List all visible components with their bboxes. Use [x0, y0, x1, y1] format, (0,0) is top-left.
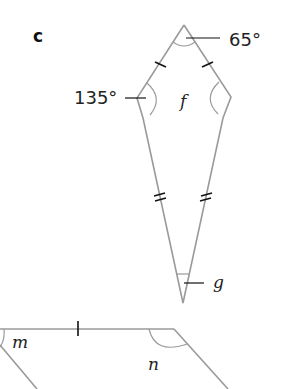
- part-label: c: [33, 26, 43, 46]
- angle-arc-m: [0, 329, 4, 347]
- angle-arc-top: [173, 42, 195, 46]
- angle-label-top: 65°: [229, 29, 261, 50]
- kite-shape: 65° 135° f g: [74, 25, 261, 303]
- kite-outline: [137, 25, 231, 303]
- angle-label-bottom: g: [213, 272, 224, 292]
- angle-arc-right: [210, 82, 219, 114]
- angle-label-right: f: [178, 91, 189, 111]
- geometry-diagram: c 65° 135° f g: [0, 0, 282, 389]
- angle-label-n: n: [148, 354, 159, 374]
- parallelogram-shape: m n: [0, 321, 228, 389]
- angle-label-m: m: [12, 332, 28, 352]
- angle-label-left: 135°: [74, 87, 117, 108]
- parallelogram-right-edge: [174, 329, 228, 389]
- angle-arc-left: [147, 83, 156, 115]
